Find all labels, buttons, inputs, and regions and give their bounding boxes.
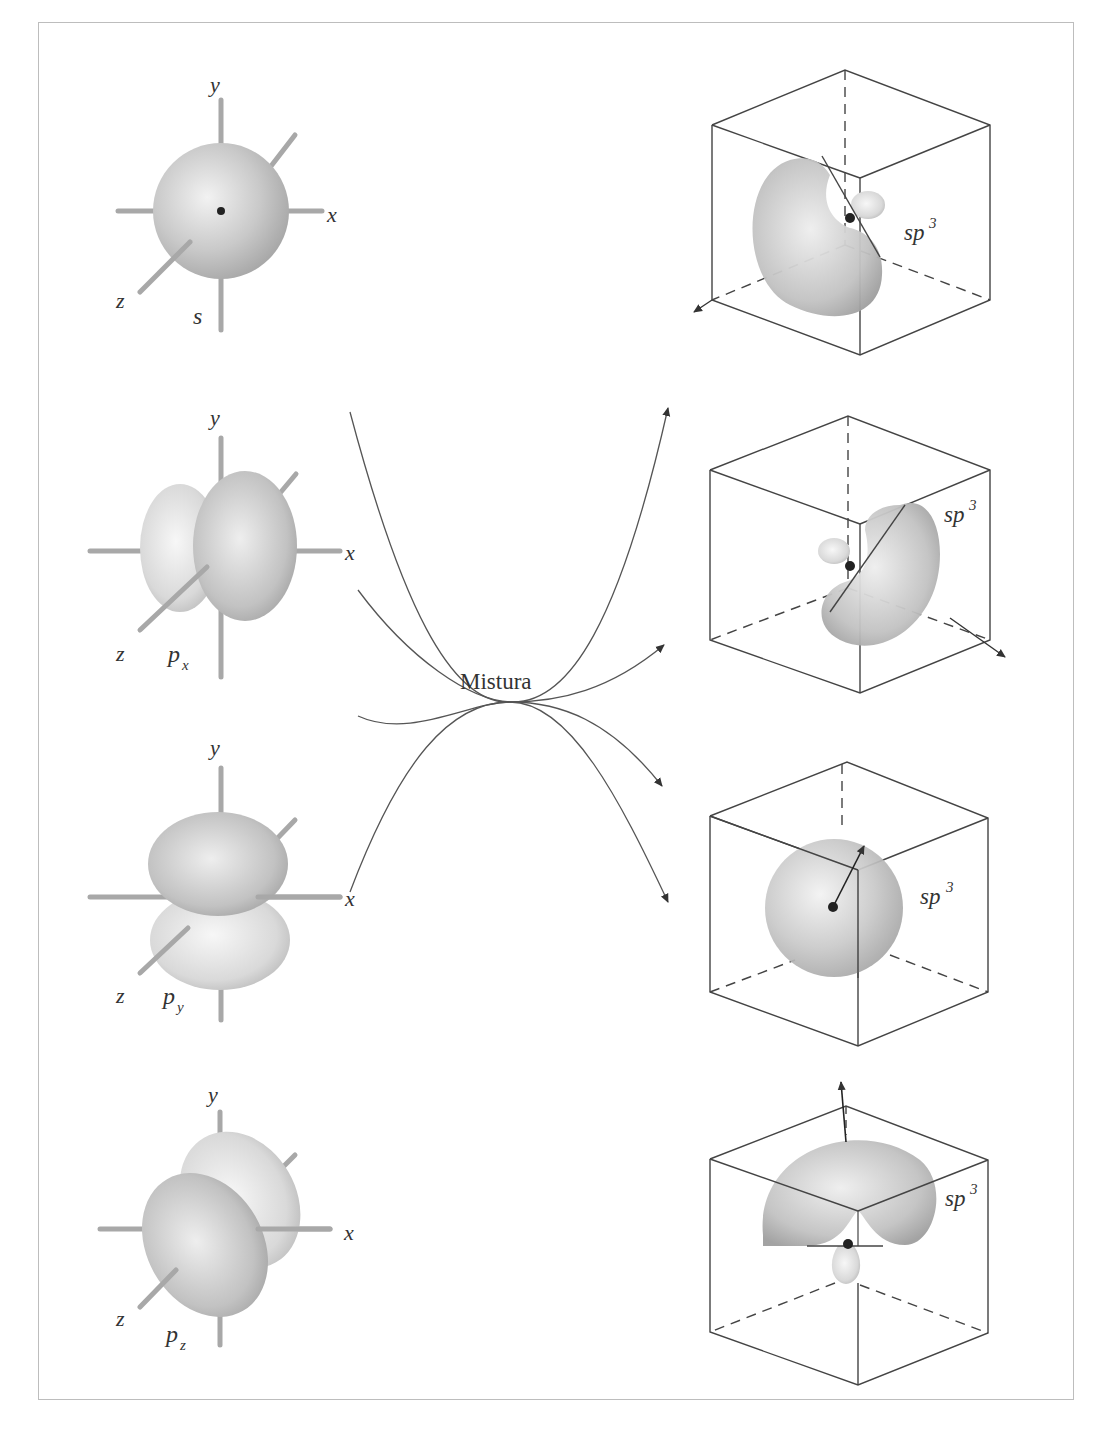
py-orbital-subscript: y [175, 999, 184, 1015]
sp3-label: sp [944, 502, 964, 527]
sp3-hybrid-2: sp 3 [710, 416, 1005, 693]
py-orbital: y x z p y [90, 735, 355, 1020]
x-axis-label: x [343, 1220, 354, 1245]
mixing-label: Mistura [460, 669, 532, 694]
x-axis-label: x [344, 540, 355, 565]
sp3-superscript: 3 [968, 497, 977, 513]
y-axis-label: y [208, 735, 220, 760]
sp3-superscript: 3 [928, 215, 937, 231]
sp3-hybrid-4: sp 3 [710, 1082, 988, 1385]
z-axis-label: z [115, 1306, 125, 1331]
py-orbital-label: p [161, 983, 175, 1009]
y-axis-label: y [208, 405, 220, 430]
s-orbital: y x z s [115, 72, 337, 330]
sp3-label: sp [945, 1186, 965, 1211]
px-orbital: y x z p x [90, 405, 355, 677]
y-axis-label: y [206, 1082, 218, 1107]
sp3-hybrid-1: sp 3 [694, 70, 990, 355]
pz-orbital-label: p [164, 1321, 178, 1347]
s-orbital-label: s [193, 303, 202, 329]
sp3-superscript: 3 [969, 1181, 978, 1197]
px-orbital-subscript: x [181, 657, 189, 673]
sp3-label: sp [904, 220, 924, 245]
x-axis-label: x [344, 886, 355, 911]
mixing-curves [350, 408, 668, 902]
z-axis-label: z [115, 288, 125, 313]
pz-orbital: y x z p z [100, 1082, 354, 1353]
pz-orbital-subscript: z [179, 1337, 186, 1353]
sp3-label: sp [920, 884, 940, 909]
y-axis-label: y [208, 72, 220, 97]
hybridization-diagram: y x z s y x z p x y x z p y [0, 0, 1104, 1439]
px-orbital-label: p [166, 641, 180, 667]
z-axis-label: z [115, 641, 125, 666]
x-axis-label: x [326, 202, 337, 227]
z-axis-label: z [115, 983, 125, 1008]
sp3-superscript: 3 [945, 879, 954, 895]
sp3-hybrid-3: sp 3 [710, 762, 988, 1046]
